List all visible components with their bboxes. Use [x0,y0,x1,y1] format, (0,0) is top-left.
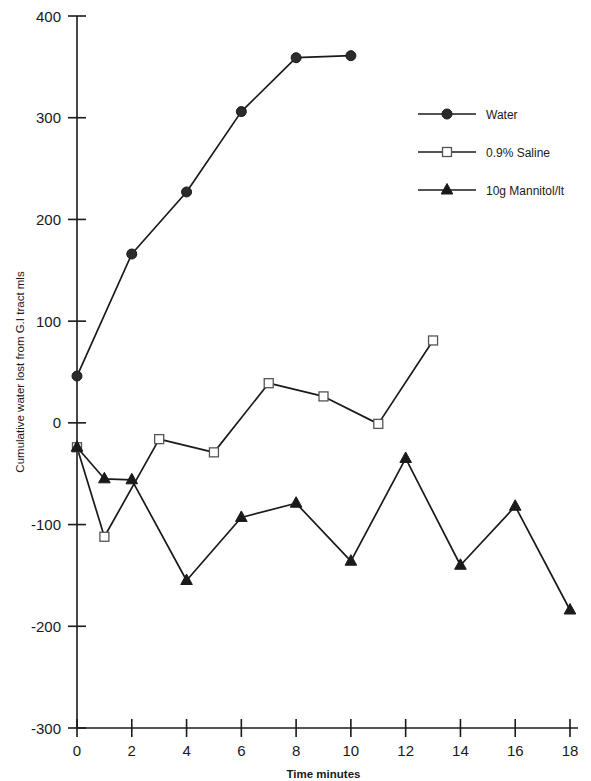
line-chart: 4003002001000-100-200-300 02468101214161… [0,0,591,781]
data-point-marker [319,392,328,401]
data-point-marker [126,473,138,484]
x-tick-label: 14 [452,742,469,759]
data-point-marker [127,249,137,259]
data-point-marker [290,497,302,508]
data-point-marker [509,500,521,511]
x-tick-label: 18 [562,742,579,759]
data-point-marker [429,336,438,345]
data-point-marker [100,532,109,541]
data-point-marker [236,107,246,117]
legend-marker-filled-circle [442,109,452,119]
legend-item-10g-mannitol-lt: 10g Mannitol/lt [418,184,565,198]
legend-item-0-9-saline: 0.9% Saline [418,146,550,160]
data-point-marker [400,452,412,463]
series-layer [71,51,576,614]
legend-marker-filled-triangle [441,184,453,195]
series-10g-mannitol-lt [71,441,576,614]
y-tick-label: 200 [36,211,61,228]
x-tick-label: 8 [292,742,300,759]
legend-item-water: Water [418,108,518,122]
x-axis-title: Time minutes [287,768,361,780]
x-tick-label: 16 [507,742,524,759]
x-tick-label: 10 [343,742,360,759]
legend-label: 10g Mannitol/lt [486,184,565,198]
x-tick-label: 4 [182,742,190,759]
series-water [72,51,356,381]
data-point-marker [264,379,273,388]
y-tick-label: -100 [31,516,61,533]
axis-titles: Cumulative water lost from G.I tract mls… [14,271,360,780]
series-0-9-saline [73,336,438,541]
data-point-marker [374,419,383,428]
x-tick-label: 2 [128,742,136,759]
y-tick-label: -300 [31,720,61,737]
y-tick-label: 100 [36,313,61,330]
x-tick-label: 12 [397,742,414,759]
data-point-marker [209,448,218,457]
chart-figure: 4003002001000-100-200-300 02468101214161… [0,0,591,781]
y-axis-title: Cumulative water lost from G.I tract mls [14,271,26,473]
data-point-marker [291,53,301,63]
series-polyline [77,447,570,610]
data-point-marker [346,51,356,61]
y-tick-label: 400 [36,8,61,25]
x-tick-label: 0 [73,742,81,759]
data-point-marker [182,187,192,197]
data-point-marker [155,435,164,444]
x-tick-label: 6 [237,742,245,759]
legend-label: 0.9% Saline [486,146,550,160]
legend-marker-open-square [443,148,452,157]
y-tick-label: -200 [31,618,61,635]
chart-legend: Water0.9% Saline10g Mannitol/lt [418,108,565,198]
data-point-marker [72,371,82,381]
data-point-marker [564,604,576,615]
y-tick-label: 0 [53,414,61,431]
x-axis: 024681012141618 [73,719,579,759]
legend-label: Water [486,108,518,122]
y-tick-label: 300 [36,109,61,126]
series-polyline [77,56,351,376]
